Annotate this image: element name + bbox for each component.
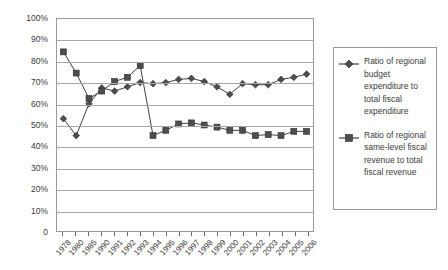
data-point — [303, 71, 310, 78]
gridline — [57, 126, 313, 127]
series-layer — [57, 19, 313, 231]
data-point — [111, 88, 118, 95]
x-tick — [127, 232, 128, 236]
square-marker-icon — [338, 130, 360, 142]
y-tick-label: 70% — [31, 78, 48, 87]
x-tick — [140, 232, 141, 236]
legend-label: Ratio of regional same-level fiscal reve… — [364, 129, 432, 179]
data-point — [252, 133, 258, 139]
x-tick — [114, 232, 115, 236]
x-tick — [75, 232, 76, 236]
x-tick — [166, 232, 167, 236]
gridline — [57, 147, 313, 148]
gridline — [57, 169, 313, 170]
data-point — [137, 63, 143, 69]
data-point — [124, 74, 130, 80]
data-point — [73, 70, 79, 76]
x-tick — [191, 232, 192, 236]
y-tick-label: 100% — [26, 14, 48, 23]
x-tick — [256, 232, 257, 236]
gridline — [57, 83, 313, 84]
y-tick-label: 20% — [31, 185, 48, 194]
data-point — [278, 133, 284, 139]
gridline — [57, 190, 313, 191]
data-point — [304, 128, 310, 134]
data-point — [201, 122, 207, 128]
data-point — [227, 127, 233, 133]
chart-legend: Ratio of regional budget expenditure to … — [333, 47, 437, 210]
legend-label: Ratio of regional budget expenditure to … — [364, 55, 432, 118]
diamond-marker-icon — [338, 56, 360, 68]
x-tick — [153, 232, 154, 236]
gridline — [57, 212, 313, 213]
x-tick — [101, 232, 102, 236]
data-point — [214, 83, 221, 90]
data-point — [86, 96, 92, 102]
data-point — [60, 49, 66, 55]
data-point — [240, 127, 246, 133]
y-tick-label: 30% — [31, 163, 48, 172]
x-tick — [243, 232, 244, 236]
x-tick — [295, 232, 296, 236]
x-tick — [308, 232, 309, 236]
data-point — [188, 120, 194, 126]
plot-area — [56, 18, 314, 232]
x-tick — [179, 232, 180, 236]
y-tick-label: 10% — [31, 206, 48, 215]
y-tick-label: 60% — [31, 99, 48, 108]
data-point — [290, 74, 297, 81]
gridline — [57, 62, 313, 63]
y-axis: 100%90%80%70%60%50%40%30%20%10%0 — [0, 18, 52, 232]
x-tick — [269, 232, 270, 236]
y-tick-label: 0 — [43, 228, 48, 237]
legend-entry: Ratio of regional same-level fiscal reve… — [338, 129, 432, 179]
x-tick — [282, 232, 283, 236]
x-tick — [62, 232, 63, 236]
x-tick — [230, 232, 231, 236]
y-tick-label: 90% — [31, 35, 48, 44]
data-point — [278, 76, 285, 83]
legend-entry: Ratio of regional budget expenditure to … — [338, 55, 432, 118]
data-point — [188, 75, 195, 82]
x-tick — [204, 232, 205, 236]
y-tick-label: 80% — [31, 56, 48, 65]
x-axis: 1978198019851990199119921993199419951996… — [56, 232, 314, 270]
line-chart: 100%90%80%70%60%50%40%30%20%10%0 1978198… — [0, 0, 448, 270]
y-tick-label: 50% — [31, 121, 48, 130]
data-point — [99, 88, 105, 94]
data-point — [175, 76, 182, 83]
x-tick — [217, 232, 218, 236]
data-point — [265, 132, 271, 138]
data-point — [163, 127, 169, 133]
gridline — [57, 105, 313, 106]
gridline — [57, 40, 313, 41]
data-point — [291, 128, 297, 134]
data-point — [150, 133, 156, 139]
y-tick-label: 40% — [31, 142, 48, 151]
data-point — [124, 83, 131, 90]
x-tick — [88, 232, 89, 236]
